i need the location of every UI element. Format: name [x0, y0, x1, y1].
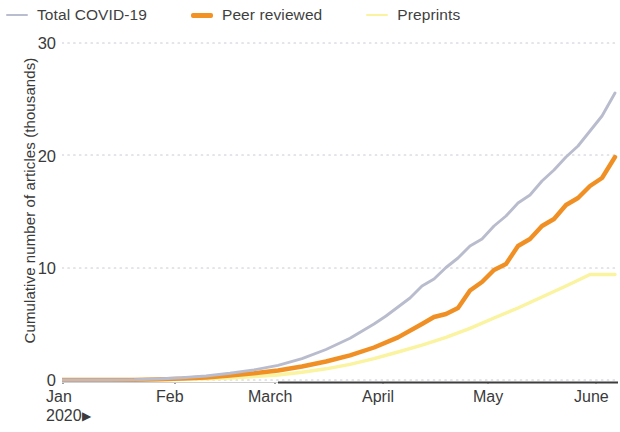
x-tick-label-april: April: [362, 388, 394, 406]
legend-label-preprints: Preprints: [397, 6, 460, 24]
x-tick-label-march: March: [248, 388, 292, 406]
legend-swatch-icon-peer-reviewed: [191, 13, 213, 18]
chart-legend: Total COVID-19 Peer reviewed Preprints: [6, 2, 614, 28]
right-arrow-icon: ▶: [82, 409, 91, 423]
x-tick-label-feb: Feb: [156, 388, 184, 406]
y-axis-tick-labels: 30 20 10 0: [12, 0, 56, 432]
y-tick-label-0: 0: [22, 371, 56, 390]
legend-item-peer-reviewed[interactable]: Peer reviewed: [191, 6, 322, 24]
y-tick-label-20: 20: [22, 147, 56, 166]
legend-label-peer-reviewed: Peer reviewed: [222, 6, 322, 24]
x-tick-label-june: June: [574, 388, 609, 406]
y-tick-label-30: 30: [22, 34, 56, 53]
x-tick-label-jan-month: Jan: [46, 388, 72, 405]
x-axis-year-note: 2020▶: [46, 407, 91, 425]
gridlines: [62, 43, 618, 380]
x-axis-year: 2020: [46, 407, 82, 424]
chart-svg: [62, 36, 618, 384]
legend-swatch-icon-preprints: [366, 14, 388, 16]
x-tick-label-jan: Jan 2020▶: [46, 388, 91, 425]
x-tick-label-may: May: [473, 388, 503, 406]
chart-figure: Total COVID-19 Peer reviewed Preprints C…: [0, 0, 620, 432]
series-line-preprints: [62, 275, 615, 381]
plot-area: [62, 36, 618, 384]
legend-item-preprints[interactable]: Preprints: [366, 6, 460, 24]
x-axis-tick-labels: Jan 2020▶ Feb March April May June: [0, 388, 620, 432]
y-tick-label-10: 10: [22, 259, 56, 278]
